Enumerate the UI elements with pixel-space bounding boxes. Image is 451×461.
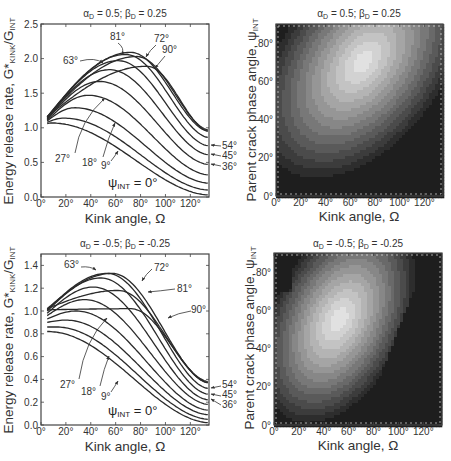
panel-top-right: αD = 0.5; βD = 0.25 0°20°40°60°80° 0°20°… xyxy=(244,8,444,224)
y-tick-label: 0.2 xyxy=(24,397,38,408)
x-axis-label: Kink angle, Ω xyxy=(85,439,166,454)
curve-label-90: 90° xyxy=(191,304,206,315)
curve-label-72: 72° xyxy=(154,262,169,273)
x-tick-label: 80° xyxy=(366,426,381,437)
contour-map xyxy=(276,24,444,198)
panel-top-left: αD = 0.5; βD = 0.25 0.00.51.01.52.02.5 0… xyxy=(1,8,237,226)
y-tick-label: 0.5 xyxy=(24,157,38,168)
y-tick-label: 60° xyxy=(256,305,271,316)
curve-label-63: 63° xyxy=(64,259,79,270)
y-axis-label: Energy release rate, G*KINK/GINT xyxy=(1,246,17,433)
y-tick-label: 0.8 xyxy=(24,328,38,339)
x-tick-label: 0° xyxy=(269,426,279,437)
x-axis-label: Kink angle, Ω xyxy=(318,438,399,453)
panel-bottom-left: αD = -0.5; βD = -0.25 0.00.20.40.60.81.0… xyxy=(1,238,237,454)
x-axis-label: Kink angle, Ω xyxy=(319,209,400,224)
x-tick-label: 0° xyxy=(271,197,281,208)
curve-label-9: 9° xyxy=(101,391,111,402)
y-tick-label: 0.6 xyxy=(24,351,38,362)
y-tick-label: 20° xyxy=(256,381,271,392)
x-tick-label: 0° xyxy=(36,426,46,437)
panel-bottom-right: αD = -0.5; βD = -0.25 0°20°40°60°80° 0°2… xyxy=(242,238,442,453)
y-tick-label: 40° xyxy=(258,114,273,125)
x-tick-label: 40° xyxy=(83,426,98,437)
y-tick-label: 1.0 xyxy=(24,306,38,317)
x-tick-label: 20° xyxy=(291,426,306,437)
curve-label-9: 9° xyxy=(101,160,111,171)
y-tick-label: 80° xyxy=(258,38,273,49)
contour-map xyxy=(274,253,442,427)
curve-label-81: 81° xyxy=(110,31,125,42)
curve-label-27: 27° xyxy=(60,379,75,390)
curve-label-90: 90° xyxy=(162,44,177,55)
y-tick-label: 1.2 xyxy=(24,283,38,294)
y-tick-label: 20° xyxy=(258,152,273,163)
x-tick-label: 40° xyxy=(316,426,331,437)
x-tick-label: 60° xyxy=(343,197,358,208)
curve-label-81: 81° xyxy=(177,283,192,294)
x-tick-label: 0° xyxy=(36,198,46,209)
x-tick-label: 60° xyxy=(108,198,123,209)
psi-annotation: ψINT = 0° xyxy=(108,175,157,191)
y-tick-label: 60° xyxy=(258,76,273,87)
y-tick-label: 0.4 xyxy=(24,374,38,385)
panel-title: αD = 0.5; βD = 0.25 xyxy=(83,8,167,20)
curve-label-27: 27° xyxy=(55,153,70,164)
y-axis-label: Parent crack phase angle, ψINT xyxy=(242,246,258,429)
series-curve-36 xyxy=(47,81,208,164)
panel-title: αD = 0.5; βD = 0.25 xyxy=(317,8,401,20)
curve-label-36: 36° xyxy=(222,161,237,172)
y-tick-label: 2.0 xyxy=(24,53,38,64)
y-tick-label: 1.0 xyxy=(24,122,38,133)
psi-annotation: ψINT = 0° xyxy=(108,403,157,419)
panel-title: αD = -0.5; βD = -0.25 xyxy=(80,238,170,250)
curve-family xyxy=(47,52,208,195)
x-tick-label: 120° xyxy=(413,426,434,437)
curve-label-63: 63° xyxy=(63,55,78,66)
x-tick-label: 60° xyxy=(108,426,123,437)
curve-label-72: 72° xyxy=(154,33,169,44)
x-tick-label: 120° xyxy=(180,426,201,437)
curve-label-18: 18° xyxy=(82,157,97,168)
x-tick-label: 20° xyxy=(58,198,73,209)
x-tick-label: 20° xyxy=(293,197,308,208)
x-tick-label: 40° xyxy=(83,198,98,209)
y-tick-label: 1.5 xyxy=(24,88,38,99)
x-tick-label: 120° xyxy=(180,198,201,209)
figure: αD = 0.5; βD = 0.25 0.00.51.01.52.02.5 0… xyxy=(0,0,451,461)
x-tick-label: 40° xyxy=(318,197,333,208)
x-tick-label: 100° xyxy=(155,198,176,209)
y-tick-label: 40° xyxy=(256,343,271,354)
x-tick-label: 100° xyxy=(389,197,410,208)
y-tick-label: 80° xyxy=(256,267,271,278)
curve-label-45: 45° xyxy=(222,150,237,161)
x-tick-label: 20° xyxy=(58,426,73,437)
curve-family xyxy=(47,273,208,422)
x-tick-label: 60° xyxy=(341,426,356,437)
curve-label-36: 36° xyxy=(222,399,237,410)
y-tick-label: 2.5 xyxy=(24,19,38,30)
x-tick-label: 80° xyxy=(133,198,148,209)
series-curve-54 xyxy=(47,61,208,146)
x-tick-label: 80° xyxy=(367,197,382,208)
x-tick-label: 80° xyxy=(133,426,148,437)
panel-title: αD = -0.5; βD = -0.25 xyxy=(313,238,403,250)
y-tick-label: 1.4 xyxy=(24,260,38,271)
x-tick-label: 100° xyxy=(155,426,176,437)
x-axis-label: Kink angle, Ω xyxy=(85,211,166,226)
y-axis-label: Parent crack phase angle, ψINT xyxy=(244,18,260,201)
curve-label-18: 18° xyxy=(81,386,96,397)
x-tick-label: 100° xyxy=(388,426,409,437)
x-tick-label: 120° xyxy=(414,197,435,208)
y-axis-label: Energy release rate, G*KINK/GINT xyxy=(1,17,17,204)
